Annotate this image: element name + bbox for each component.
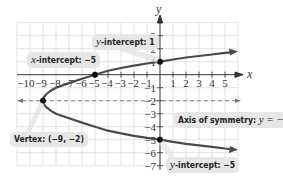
svg-text:1: 1 — [170, 77, 176, 89]
x-axis-label: x — [246, 67, 253, 81]
arrow-top-right — [229, 49, 238, 56]
svg-text:−3: −3 — [114, 77, 126, 89]
svg-text:−3: −3 — [144, 108, 156, 120]
svg-text:5: 5 — [222, 77, 228, 89]
svg-text:−4: −4 — [144, 121, 156, 133]
svg-text:−10: −10 — [17, 77, 35, 89]
svg-text:−5: −5 — [88, 77, 100, 89]
svg-text:4: 4 — [209, 77, 215, 89]
svg-text:−6: −6 — [144, 147, 156, 159]
x-tick-labels: −10−9−8 −7−6−5 −4−3−2 −1 123 45 — [17, 77, 228, 89]
arrow-bottom-right — [229, 146, 238, 153]
axis-of-symmetry-line — [17, 99, 241, 103]
svg-text:−1: −1 — [144, 82, 156, 94]
svg-text:−4: −4 — [101, 77, 113, 89]
svg-text:−7: −7 — [144, 160, 156, 172]
svg-text:2: 2 — [183, 77, 189, 89]
callout-y-intercept-1: y-intercept: 1 — [92, 34, 159, 50]
callout-x-intercept: x-intercept: −5 — [27, 52, 100, 68]
svg-text:3: 3 — [196, 77, 202, 89]
callout-y-intercept-neg5: y-intercept: −5 — [166, 157, 239, 173]
y-axis-label: y — [155, 2, 162, 16]
svg-text:−9: −9 — [35, 77, 47, 89]
callout-axis-of-symmetry: Axis of symmetry: y = −2 — [174, 112, 283, 128]
svg-text:−2: −2 — [127, 77, 139, 89]
graph: −10−9−8 −7−6−5 −4−3−2 −1 123 45 321 −1−2… — [0, 0, 283, 194]
x-intercept-point — [92, 72, 98, 78]
callout-vertex: Vertex: (−9, −2) — [10, 132, 88, 147]
